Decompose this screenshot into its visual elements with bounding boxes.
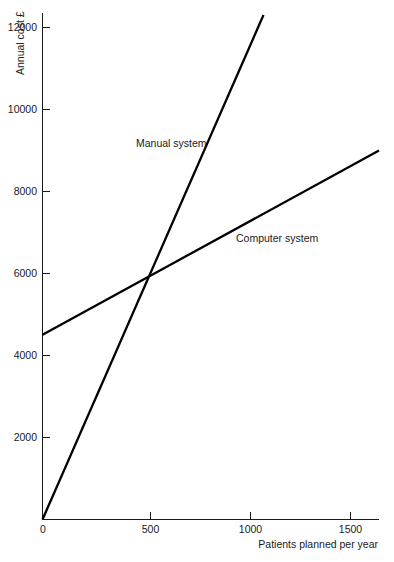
y-tick-label-10000: 10000 [8, 103, 37, 115]
x-axis-title: Patients planned per year [258, 538, 378, 550]
x-tick-label-1500: 1500 [339, 523, 363, 535]
y-tick-label-6000: 6000 [14, 267, 38, 279]
series-label-manual-system: Manual system [136, 137, 207, 149]
y-tick-label-2000: 2000 [14, 431, 38, 443]
y-tick-label-0: 0 [40, 523, 46, 535]
y-tick-label-4000: 4000 [14, 349, 38, 361]
chart-page: 12000 10000 8000 6000 4000 2000 0 500 10… [0, 0, 394, 562]
y-tick-label-8000: 8000 [14, 185, 38, 197]
series-line-manual-system [43, 15, 264, 520]
x-tick-label-1000: 1000 [239, 523, 263, 535]
series-label-computer-system: Computer system [236, 232, 319, 244]
line-chart: 12000 10000 8000 6000 4000 2000 0 500 10… [0, 0, 394, 562]
x-tick-label-500: 500 [142, 523, 160, 535]
y-axis-title: Annual cost £ [14, 11, 26, 75]
series-line-computer-system [43, 151, 380, 335]
